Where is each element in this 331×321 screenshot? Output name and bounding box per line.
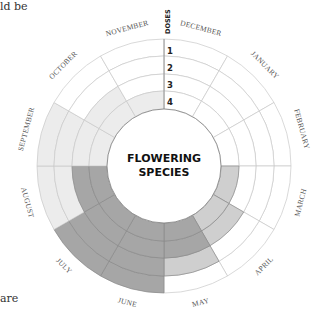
dose-ring-2-label: 2 [167, 63, 173, 73]
center-title-line2: SPECIES [138, 166, 189, 179]
month-label-july: JULY [54, 256, 74, 276]
month-label-november: NOVEMBER [105, 18, 150, 38]
month-label-june: JUNE [117, 296, 138, 310]
dose-ring-4-label: 4 [167, 97, 173, 107]
month-label-december: DECEMBER [179, 18, 222, 38]
center-title-line1: FLOWERING [127, 152, 201, 165]
month-label-february: FEBRUARY [292, 108, 311, 150]
flowering-calendar-wheel: DECEMBERJANUARYFEBRUARYMARCHAPRILMAYJUNE… [0, 0, 331, 321]
month-label-may: MAY [191, 296, 211, 309]
dose-ring-1-label: 1 [167, 46, 173, 56]
month-label-september: SEPTEMBER [16, 106, 36, 152]
month-label-april: APRIL [253, 255, 276, 278]
month-label-march: MARCH [292, 187, 308, 217]
doses-label: DOSES [164, 9, 172, 34]
dose-ring-3-label: 3 [167, 80, 173, 90]
month-label-august: AUGUST [19, 186, 36, 219]
